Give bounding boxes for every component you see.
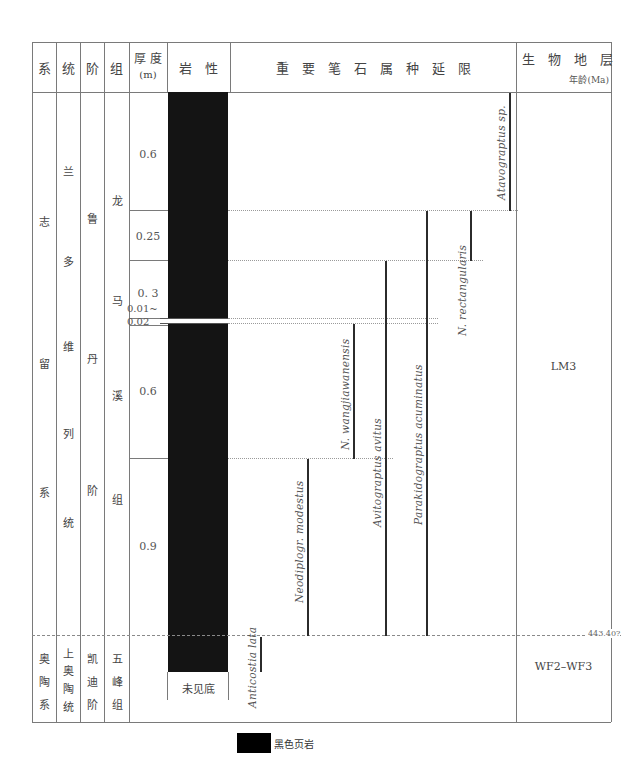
series-char: 上 xyxy=(58,645,78,661)
header-biozone: 生 物 地 层 年龄(Ma) xyxy=(516,42,611,92)
range-bar-parakidograptus xyxy=(426,211,428,636)
lithology-bottom-border xyxy=(228,672,229,700)
series-char: 多 xyxy=(58,253,78,269)
correlation-line xyxy=(228,260,483,261)
biozone-upper: LM3 xyxy=(516,360,611,373)
header-formation-label: 组 xyxy=(110,58,123,77)
range-bar-neodiplograptus xyxy=(307,459,309,636)
formation-char: 龙 xyxy=(107,192,127,208)
col-border xyxy=(104,42,105,722)
thickness-value: 0.9 xyxy=(129,540,167,553)
legend: 黑色页岩 xyxy=(237,733,314,753)
col-border xyxy=(56,42,57,722)
boundary-age-label: 443.40? xyxy=(587,629,620,638)
range-bar-n-wangjiawanensis xyxy=(353,324,355,459)
header-stage: 阶 xyxy=(80,42,104,92)
correlation-line xyxy=(228,318,438,319)
series-char: 陶 xyxy=(58,680,78,696)
biozone-lower: WF2–WF3 xyxy=(516,660,611,673)
correlation-line xyxy=(228,458,393,459)
range-bar-n-rectangularis xyxy=(470,211,472,261)
header-formation: 组 xyxy=(104,42,129,92)
col-border xyxy=(516,42,517,722)
species-label-anticostia: Anticostia lata xyxy=(246,627,258,708)
system-char: 留 xyxy=(34,355,54,371)
series-char: 兰 xyxy=(58,163,78,179)
formation-char: 马 xyxy=(107,292,127,308)
header-lithology-label: 岩 性 xyxy=(179,58,218,77)
lithology-gap-line xyxy=(160,318,228,319)
formation-char: 五 xyxy=(107,650,127,666)
species-label-n-wangjiawanensis: N. wangjiawanensis xyxy=(339,339,351,450)
formation-char: 峰 xyxy=(107,673,127,689)
range-bar-anticostia xyxy=(260,637,262,672)
system-char: 陶 xyxy=(34,673,54,689)
series-char: 维 xyxy=(58,338,78,354)
header-graptolite-ranges-label: 重 要 笔 石 属 种 延 限 xyxy=(276,58,471,77)
col-border xyxy=(129,42,130,722)
thickness-value: 0.01~ xyxy=(127,303,165,314)
lithology-gap-line xyxy=(160,323,228,324)
system-boundary-line xyxy=(32,635,610,636)
species-label-parakidograptus: Parakidograptus acuminatus xyxy=(412,364,424,525)
lithology-bottom-note: 未见底 xyxy=(168,680,228,696)
system-char: 系 xyxy=(34,696,54,712)
stage-char: 阶 xyxy=(82,482,102,498)
header-system: 系 xyxy=(32,42,56,92)
system-char: 系 xyxy=(34,484,54,500)
legend-label: 黑色页岩 xyxy=(274,736,314,751)
series-char: 统 xyxy=(58,698,78,714)
header-thickness-unit: (m) xyxy=(139,67,156,82)
series-char: 列 xyxy=(58,425,78,441)
col-border xyxy=(611,42,612,722)
series-char: 奥 xyxy=(58,662,78,678)
correlation-line xyxy=(228,323,438,324)
thickness-value: 0.6 xyxy=(129,148,167,161)
header-bottom-border xyxy=(32,92,611,93)
header-thickness: 厚 度 (m) xyxy=(129,42,167,92)
series-char: 统 xyxy=(58,514,78,530)
stage-char: 丹 xyxy=(82,350,102,366)
species-label-atavograptus: Atavograptus sp. xyxy=(495,105,507,200)
header-biozone-label: 生 物 地 层 xyxy=(522,49,613,68)
layer-divider xyxy=(129,210,168,211)
header-age-unit: 年龄(Ma) xyxy=(569,73,609,86)
black-shale-lower xyxy=(168,324,228,672)
system-char: 奥 xyxy=(34,650,54,666)
col-border xyxy=(32,42,33,722)
header-lithology: 岩 性 xyxy=(167,42,230,92)
species-label-n-rectangularis: N. rectangularis xyxy=(456,245,468,336)
col-border xyxy=(80,42,81,722)
black-shale-upper xyxy=(168,92,228,318)
formation-char: 组 xyxy=(107,491,127,507)
species-label-avitograptus: Avitograptus avitus xyxy=(371,418,383,527)
header-thickness-label: 厚 度 xyxy=(134,52,162,67)
range-bar-avitograptus xyxy=(385,261,387,636)
thickness-value: 0.6 xyxy=(129,385,167,398)
system-char: 志 xyxy=(34,213,54,229)
stage-char: 迪 xyxy=(82,673,102,689)
formation-char: 组 xyxy=(107,696,127,712)
header-series-label: 统 xyxy=(62,58,75,77)
stage-char: 鲁 xyxy=(82,210,102,226)
header-series: 统 xyxy=(56,42,80,92)
stage-char: 阶 xyxy=(82,696,102,712)
legend-swatch-black-shale xyxy=(237,733,271,753)
species-label-neodiplograptus: Neodiplogr. modestus xyxy=(293,481,305,603)
header-graptolite-ranges: 重 要 笔 石 属 种 延 限 xyxy=(230,42,516,92)
layer-divider xyxy=(129,260,168,261)
correlation-line xyxy=(228,210,518,211)
layer-divider xyxy=(129,458,168,459)
range-bar-atavograptus xyxy=(509,93,511,211)
stage-char: 凯 xyxy=(82,650,102,666)
thickness-value: 0.25 xyxy=(129,230,167,243)
formation-char: 溪 xyxy=(107,387,127,403)
thickness-value: 0. 3 xyxy=(129,287,167,300)
table-bottom-border xyxy=(32,722,611,723)
header-system-label: 系 xyxy=(38,58,51,77)
header-stage-label: 阶 xyxy=(86,58,99,77)
